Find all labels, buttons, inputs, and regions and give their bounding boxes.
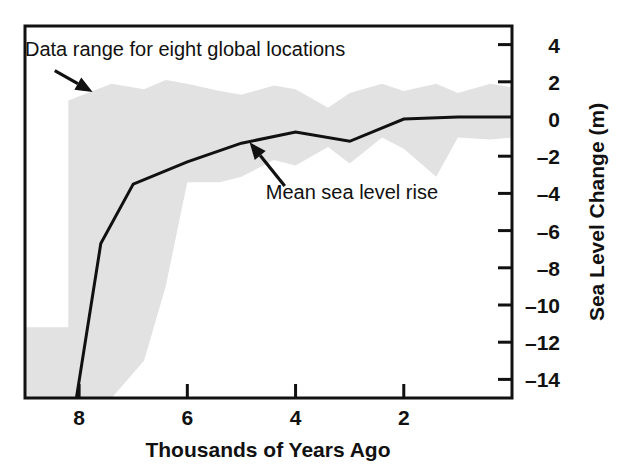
sea-level-change-chart: 420–2–4–6–8–10–12–14 8642 Sea Level Chan…	[0, 0, 624, 467]
y-axis-tick-labels: 420–2–4–6–8–10–12–14	[525, 34, 560, 392]
y-tick-label: 2	[548, 71, 560, 94]
plot-band-group	[25, 80, 512, 398]
x-axis-tick-labels: 8642	[73, 406, 409, 429]
y-tick-label: –12	[525, 331, 560, 354]
x-tick-label: 6	[181, 406, 193, 429]
x-axis-label: Thousands of Years Ago	[145, 438, 390, 461]
y-tick-label: 4	[548, 34, 560, 57]
y-tick-label: –6	[537, 220, 560, 243]
x-axis-ticks	[79, 384, 404, 398]
x-tick-label: 2	[398, 406, 410, 429]
data-range-band	[25, 80, 512, 398]
x-tick-label: 4	[290, 406, 302, 429]
y-tick-label: –2	[537, 145, 560, 168]
annotation-arrow-shaft	[55, 71, 78, 84]
x-tick-label: 8	[73, 406, 85, 429]
y-tick-label: –10	[525, 294, 560, 317]
y-tick-label: –4	[537, 182, 561, 205]
data-range-annotation-label: Data range for eight global locations	[25, 38, 345, 60]
y-tick-label: 0	[548, 108, 560, 131]
y-axis-label: Sea Level Change (m)	[585, 103, 608, 321]
mean-line-annotation-label: Mean sea level rise	[266, 181, 438, 203]
y-tick-label: –8	[537, 257, 561, 280]
y-tick-label: –14	[525, 368, 560, 391]
figure-container: 420–2–4–6–8–10–12–14 8642 Sea Level Chan…	[0, 0, 624, 467]
